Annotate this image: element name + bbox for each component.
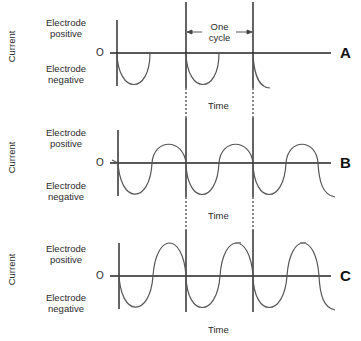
negative-line2: negative (36, 191, 96, 202)
waveform-diagram (0, 0, 361, 341)
panel-b-waveform (112, 144, 335, 197)
one-cycle-line2: cycle (203, 32, 236, 43)
time-label-a: Time (208, 100, 229, 111)
y-axis-label-c: Current (6, 254, 17, 286)
electrode-positive-label-b: Electrode positive (36, 127, 96, 149)
electrode-positive-label-c: Electrode positive (36, 243, 96, 265)
positive-line2: positive (36, 254, 96, 265)
panel-b-axes (110, 130, 331, 196)
panel-letter-c: C (340, 267, 351, 284)
electrode-positive-label-a: Electrode positive (36, 17, 96, 39)
panel-a-waveform (117, 53, 270, 88)
one-cycle-line1: One (203, 21, 236, 32)
panel-letter-a: A (340, 44, 351, 61)
positive-line2: positive (36, 138, 96, 149)
positive-line1: Electrode (36, 127, 96, 138)
zero-label-a: O (96, 47, 104, 58)
zero-label-c: O (96, 270, 104, 281)
positive-line1: Electrode (36, 17, 96, 28)
time-label-b: Time (208, 210, 229, 221)
negative-line1: Electrode (36, 292, 96, 303)
time-label-c: Time (208, 324, 229, 335)
negative-line2: negative (36, 303, 96, 314)
one-cycle-label: One cycle (203, 21, 236, 43)
positive-line1: Electrode (36, 243, 96, 254)
negative-line1: Electrode (36, 180, 96, 191)
peak-marks (235, 242, 306, 244)
zero-label-b: O (96, 157, 104, 168)
y-axis-label-a: Current (6, 31, 17, 63)
y-axis-label-b: Current (6, 142, 17, 174)
positive-line2: positive (36, 28, 96, 39)
negative-line1: Electrode (36, 63, 96, 74)
electrode-negative-label-b: Electrode negative (36, 180, 96, 202)
electrode-negative-label-c: Electrode negative (36, 292, 96, 314)
electrode-negative-label-a: Electrode negative (36, 63, 96, 85)
panel-letter-b: B (340, 154, 351, 171)
negative-line2: negative (36, 74, 96, 85)
